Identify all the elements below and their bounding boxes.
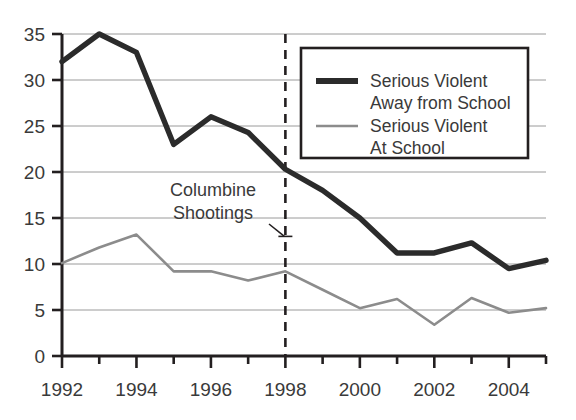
y-tick-label-30: 30 <box>24 70 45 91</box>
y-tick-label-35: 35 <box>24 24 45 45</box>
x-tick-label-1996: 1996 <box>190 379 232 400</box>
legend-label-away-line-1: Serious Violent <box>370 71 488 91</box>
x-tick-label-2000: 2000 <box>339 379 381 400</box>
x-tick-label-1992: 1992 <box>41 379 83 400</box>
y-tick-label-0: 0 <box>34 346 45 367</box>
legend: Serious Violent Away from School Serious… <box>301 48 528 158</box>
x-tick-label-2004: 2004 <box>488 379 531 400</box>
y-tick-label-20: 20 <box>24 162 45 183</box>
y-tick-label-10: 10 <box>24 254 45 275</box>
y-tick-label-5: 5 <box>34 300 45 321</box>
legend-label-at-line-1: Serious Violent <box>370 116 488 136</box>
y-tick-label-15: 15 <box>24 208 45 229</box>
x-tick-label-1994: 1994 <box>115 379 158 400</box>
x-tick-label-1998: 1998 <box>264 379 306 400</box>
line-chart: 05101520253035 1992199419961998200020022… <box>0 0 576 420</box>
annotation-line-2: Shootings <box>173 203 253 223</box>
chart-container: 05101520253035 1992199419961998200020022… <box>0 0 576 420</box>
x-tick-label-2002: 2002 <box>413 379 455 400</box>
legend-label-away-line-2: Away from School <box>370 93 511 113</box>
legend-label-at-line-2: At School <box>370 138 445 158</box>
annotation-line-1: Columbine <box>170 180 256 200</box>
y-tick-label-25: 25 <box>24 116 45 137</box>
